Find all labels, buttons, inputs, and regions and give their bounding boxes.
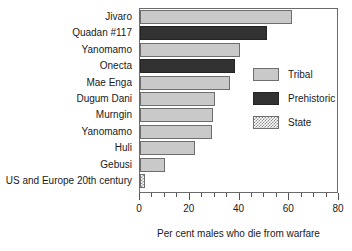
category-label: Murngin [96,107,132,123]
category-label: Dugum Dani [76,91,132,107]
category-label: Quadan #117 [72,25,132,41]
x-tick-label: 0 [136,203,142,215]
category-label: Yanomamo [82,124,132,140]
category-label: US and Europe 20th century [6,173,132,189]
x-tick-label: 60 [283,203,294,215]
x-tick-label: 40 [233,203,244,215]
category-axis-labels: JivaroQuadan #117YanomamoOnectaMae EngaD… [0,8,136,193]
x-tick-minor [251,193,252,197]
bar [140,59,235,73]
legend-item: Tribal [253,64,348,84]
category-label: Jivaro [105,9,132,25]
x-axis-tick-labels: 020406080 [139,203,338,217]
category-label: Huli [115,140,132,156]
legend-swatch [253,92,279,105]
x-tick-minor [326,193,327,197]
x-tick-minor [301,193,302,197]
bar [140,26,267,40]
x-tick-minor [276,193,277,197]
bar [140,125,212,139]
category-label: Gebusi [100,157,132,173]
bar [140,141,195,155]
x-tick-minor [201,193,202,197]
x-tick-minor [164,193,165,197]
x-tick-minor [226,193,227,197]
legend-item: Prehistoric [253,88,348,108]
legend-swatch [253,116,279,129]
x-tick-major [288,193,289,200]
legend-label: Tribal [288,69,313,80]
legend-item: State [253,112,348,132]
x-axis-title: Per cent males who die from warfare [139,228,338,239]
bar [140,10,292,24]
legend-swatch [253,68,279,81]
bar [140,76,230,90]
x-tick-minor [151,193,152,197]
category-label: Mae Enga [86,75,132,91]
x-tick-minor [313,193,314,197]
x-tick-major [139,193,140,200]
category-label: Onecta [100,58,132,74]
x-tick-minor [263,193,264,197]
x-tick-label: 80 [332,203,343,215]
bar [140,92,215,106]
chart-legend: TribalPrehistoricState [253,64,348,136]
legend-label: Prehistoric [288,93,335,104]
bar [140,174,145,188]
x-tick-minor [176,193,177,197]
x-tick-label: 20 [183,203,194,215]
bar-chart: JivaroQuadan #117YanomamoOnectaMae EngaD… [0,0,352,251]
x-tick-major [338,193,339,200]
bar [140,108,213,122]
bar [140,158,165,172]
category-label: Yanomamo [82,42,132,58]
x-tick-minor [214,193,215,197]
x-tick-major [189,193,190,200]
x-tick-major [239,193,240,200]
bar [140,43,240,57]
legend-label: State [288,117,311,128]
